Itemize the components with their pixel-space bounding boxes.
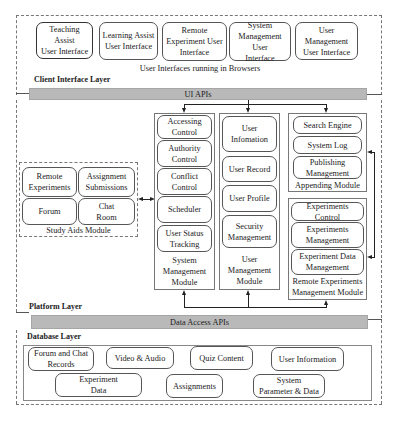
user-record: User Record xyxy=(222,156,277,182)
accessing-control: Accessing Control xyxy=(157,115,212,139)
teaching-assist-ui: Teaching Assist User Interface xyxy=(36,22,93,59)
arrow-left-icon xyxy=(367,255,372,259)
data-api-connector xyxy=(184,307,327,308)
client-layer-left-border xyxy=(16,15,17,95)
platform-layer-left-border xyxy=(16,100,17,312)
client-layer-left-tick xyxy=(16,93,29,94)
connector-up-sys xyxy=(184,294,185,307)
arrow-up-icon xyxy=(324,300,328,305)
conflict-control: Conflict Control xyxy=(157,168,212,195)
database-layer-left-border xyxy=(16,330,17,404)
experiments-control: Experiments Control xyxy=(291,202,364,221)
remote-experiment-ui: Remote Experiment User Interface xyxy=(162,22,227,61)
db-forum-chat-records: Forum and Chat Records xyxy=(28,347,94,371)
remote-experiments-title: Remote Experiments Management Module xyxy=(288,276,367,298)
data-access-apis-bar: Data Access APIs xyxy=(31,315,368,329)
client-layer-right-border xyxy=(381,15,382,95)
client-layer-top-border xyxy=(16,15,382,16)
learning-assist-ui: Learning Assist User Interface xyxy=(99,22,158,60)
user-information: User Infomation xyxy=(222,116,277,152)
db-system-parameter-data: System Parameter & Data xyxy=(253,374,325,398)
user-management-ui: User Management User Interface xyxy=(295,22,358,60)
ui-api-connector xyxy=(184,104,326,105)
db-video-audio: Video & Audio xyxy=(106,347,174,369)
browsers-caption: User Interfaces running in Browsers xyxy=(130,63,270,74)
platform-layer-right-tick xyxy=(368,319,382,320)
study-aids-assignment-submissions: Assignment Submissions xyxy=(78,167,135,197)
arrow-left-icon xyxy=(138,197,143,201)
client-layer-label: Client Interface Layer xyxy=(34,75,110,84)
authority-control: Authority Control xyxy=(157,140,212,167)
db-user-information: User Information xyxy=(271,347,344,371)
user-status-tracking: User Status Tracking xyxy=(157,225,212,252)
system-management-ui: System Management User Interface xyxy=(229,22,291,61)
scheduler: Scheduler xyxy=(157,196,212,223)
study-aids-remote-experiments: Remote Experiments xyxy=(22,167,77,197)
arrow-up-icon xyxy=(182,290,186,295)
appending-remote-link xyxy=(374,152,375,257)
appending-title: Appending Module xyxy=(289,180,366,191)
experiment-data-management: Experiment Data Management xyxy=(291,249,364,275)
study-aids-title: Study Aids Module xyxy=(22,225,135,236)
database-layer-label: Database Layer xyxy=(27,332,81,341)
db-quiz-content: Quiz Content xyxy=(190,346,253,370)
database-layer-right-border xyxy=(381,320,382,404)
search-engine: Search Engine xyxy=(293,116,362,134)
db-assignments: Assignments xyxy=(166,374,223,398)
user-management-title: User Management Module xyxy=(220,254,279,287)
study-aids-forum: Forum xyxy=(22,198,77,225)
security-management: Security Management xyxy=(222,215,277,248)
study-aids-chat-room: Chat Room xyxy=(78,198,135,225)
database-layer-bottom-border xyxy=(16,404,382,405)
experiments-management: Experiments Management xyxy=(291,222,364,248)
client-layer-right-tick xyxy=(366,94,382,95)
system-log: System Log xyxy=(293,136,362,154)
connector-up-user xyxy=(248,294,249,307)
platform-layer-left-tick xyxy=(16,312,29,313)
platform-layer-right-border xyxy=(381,100,382,318)
platform-layer-label: Platform Layer xyxy=(29,302,82,311)
ui-apis-bar: UI APIs xyxy=(29,88,367,100)
arrow-left-icon xyxy=(367,150,372,154)
publishing-management: Publishing Management xyxy=(293,156,362,179)
arrow-up-icon xyxy=(246,290,250,295)
db-experiment-data: Experiment Data xyxy=(55,373,142,397)
user-profile: User Profile xyxy=(222,185,277,212)
system-management-title: System Management Module xyxy=(155,255,214,288)
